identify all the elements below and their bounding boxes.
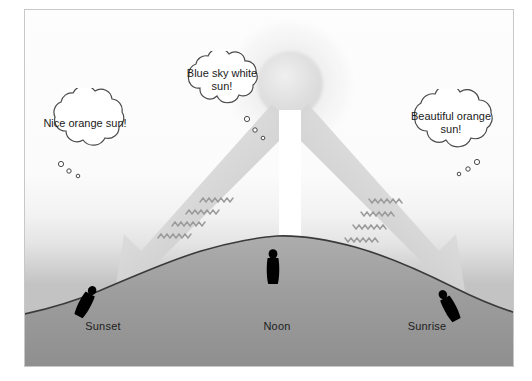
thought-tail-sunset [58, 161, 79, 177]
ground-label-noon: Noon [247, 320, 307, 332]
ground-label-sunset: Sunset [63, 320, 143, 332]
thought-bubble-sunset: Nice orange sun! [41, 88, 129, 158]
diagram-canvas: Nice orange sun! Blue sky white sun! Bea… [0, 0, 532, 381]
bubble-text-sunset: Nice orange sun! [41, 117, 128, 130]
bubble-text-noon: Blue sky white sun! [176, 67, 268, 93]
diagram-frame: Nice orange sun! Blue sky white sun! Bea… [24, 9, 514, 367]
diagram-artwork [25, 10, 513, 366]
thought-tail-sunrise [457, 159, 479, 175]
ground-label-sunrise: Sunrise [387, 320, 467, 332]
thought-bubble-sunrise: Beautiful orange sun! [399, 89, 503, 157]
thought-bubble-noon: Blue sky white sun! [176, 51, 268, 109]
observer-figure-noon [267, 249, 280, 284]
bubble-text-sunrise: Beautiful orange sun! [399, 110, 503, 136]
